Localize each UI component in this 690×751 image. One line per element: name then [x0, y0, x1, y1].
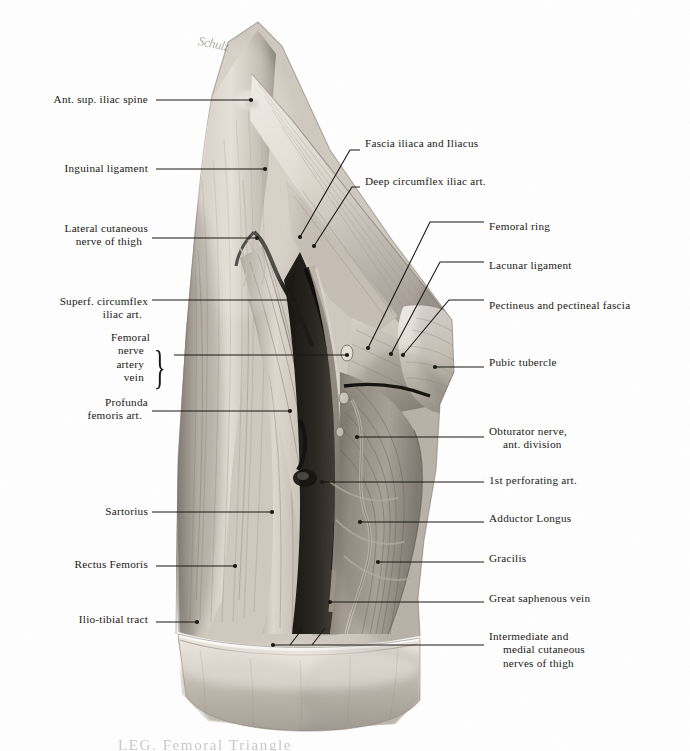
label-line: nerves of thigh — [489, 657, 585, 670]
label-line: Inguinal ligament — [0, 162, 148, 175]
label-gracilis: Gracilis — [489, 552, 526, 565]
label-line: Pubic tubercle — [489, 356, 557, 369]
label-line: Lacunar ligament — [489, 259, 572, 272]
label-sartorius: Sartorius — [0, 505, 148, 518]
label-line: nerve — [0, 344, 150, 357]
label-lacunar-ligament: Lacunar ligament — [489, 259, 572, 272]
label-obturator-nerve: Obturator nerve,ant. division — [489, 425, 567, 452]
label-line: vein — [0, 371, 150, 384]
label-line: Superf. circumflex — [0, 295, 148, 308]
label-line: Profunda — [0, 396, 148, 409]
label-pectineus-pectineal: Pectineus and pectineal fascia — [489, 299, 630, 312]
label-line: ant. division — [489, 438, 567, 451]
label-line: Rectus Femoris — [0, 558, 148, 571]
label-line: femoris art. — [0, 409, 148, 422]
label-line: Femoral ring — [489, 220, 550, 233]
label-lateral-cutaneous-nerve: Lateral cutaneousnerve of thigh — [0, 222, 148, 249]
label-line: nerve of thigh — [0, 235, 148, 248]
label-intermediate-medial-cut: Intermediate andmedial cutaneousnerves o… — [489, 630, 585, 670]
label-line: iliac art. — [0, 308, 148, 321]
label-first-perforating-art: 1st perforating art. — [489, 474, 577, 487]
label-line: Great saphenous vein — [489, 592, 590, 605]
label-line: Lateral cutaneous — [0, 222, 148, 235]
label-rectus-femoris: Rectus Femoris — [0, 558, 148, 571]
label-line: Sartorius — [0, 505, 148, 518]
label-inguinal-ligament: Inguinal ligament — [0, 162, 148, 175]
label-line: Ant. sup. iliac spine — [0, 93, 148, 106]
label-great-saphenous-vein: Great saphenous vein — [489, 592, 590, 605]
label-line: 1st perforating art. — [489, 474, 577, 487]
label-line: Gracilis — [489, 552, 526, 565]
label-fascia-iliaca-iliacus: Fascia iliaca and Iliacus — [365, 137, 478, 150]
label-superf-circumflex-iliac: Superf. circumflexiliac art. — [0, 295, 148, 322]
label-line: artery — [0, 358, 150, 371]
label-femoral-ring: Femoral ring — [489, 220, 550, 233]
label-line: Deep circumflex iliac art. — [365, 175, 486, 188]
label-line: Pectineus and pectineal fascia — [489, 299, 630, 312]
anatomy-plate-page: Schulz Ant. sup. iliac spineInguinal lig… — [0, 0, 690, 751]
label-profunda-femoris-art: Profundafemoris art. — [0, 396, 148, 423]
label-line: Femoral — [0, 331, 150, 344]
brace-femoral-group: } — [154, 344, 166, 391]
label-pubic-tubercle: Pubic tubercle — [489, 356, 557, 369]
label-line: Intermediate and — [489, 630, 585, 643]
label-line: Fascia iliaca and Iliacus — [365, 137, 478, 150]
label-ilio-tibial-tract: Ilio-tibial tract — [0, 613, 148, 626]
label-line: Obturator nerve, — [489, 425, 567, 438]
plate-caption: LEG. Femoral Triangle — [0, 737, 690, 751]
label-deep-circumflex-iliac: Deep circumflex iliac art. — [365, 175, 486, 188]
label-line: medial cutaneous — [489, 643, 585, 656]
label-ant-sup-iliac-spine: Ant. sup. iliac spine — [0, 93, 148, 106]
label-femoral-nav: Femoralnervearteryvein — [0, 331, 150, 385]
label-adductor-longus: Adductor Longus — [489, 512, 571, 525]
label-line: Adductor Longus — [489, 512, 571, 525]
label-line: Ilio-tibial tract — [0, 613, 148, 626]
